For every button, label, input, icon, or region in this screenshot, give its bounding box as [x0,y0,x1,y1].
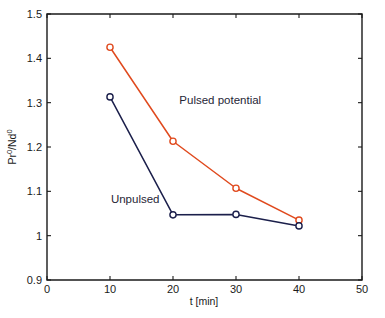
y-axis-title-mid: /Nd [6,133,18,150]
y-tick-label: 1.5 [27,8,42,20]
y-axis-title: Pr0/Nd0 [5,129,19,164]
x-tick-label: 0 [44,283,50,295]
y-tick-label: 1.2 [27,141,42,153]
x-tick-label: 40 [293,283,305,295]
svg-text:Pr0/Nd0: Pr0/Nd0 [5,129,19,164]
series-annotation-label: Pulsed potential [179,94,261,106]
y-tick-label: 0.9 [27,274,42,286]
series-annotation-label: Unpulsed [111,193,160,205]
y-axis-title-sup2: 0 [5,129,14,133]
x-tick-label: 20 [167,283,179,295]
data-point-marker [296,223,302,229]
y-tick-label: 1.1 [27,185,42,197]
y-axis-tick-labels: 0.911.11.21.31.41.5 [27,8,42,286]
x-tick-label: 10 [104,283,116,295]
x-axis-title: t [min] [190,295,219,307]
data-point-marker [107,44,113,50]
x-axis-tick-labels: 01020304050 [44,283,368,295]
data-point-marker [233,211,239,217]
x-tick-label: 30 [230,283,242,295]
clipped-top-caption [0,0,385,4]
x-tick-label: 50 [356,283,368,295]
y-tick-label: 1 [36,230,42,242]
data-point-marker [170,138,176,144]
data-point-marker [170,212,176,218]
data-point-marker [107,94,113,100]
y-axis-title-base: Pr [6,154,18,165]
data-point-marker [233,185,239,191]
chart-figure: 01020304050 0.911.11.21.31.41.5 Pulsed p… [0,0,385,318]
line-chart: 01020304050 0.911.11.21.31.41.5 Pulsed p… [0,0,385,318]
y-tick-label: 1.4 [27,52,42,64]
plot-area-background [47,14,362,280]
y-tick-label: 1.3 [27,97,42,109]
